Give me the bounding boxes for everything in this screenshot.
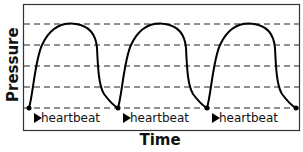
- heartbeat-label: heartbeat: [41, 111, 100, 125]
- x-axis-label: Time: [120, 131, 200, 149]
- pressure-chart: [0, 0, 303, 152]
- heartbeat-label: heartbeat: [130, 111, 189, 125]
- y-axis-label: Pressure: [4, 32, 22, 102]
- gridlines: [24, 24, 299, 108]
- heartbeat-label: heartbeat: [219, 111, 278, 125]
